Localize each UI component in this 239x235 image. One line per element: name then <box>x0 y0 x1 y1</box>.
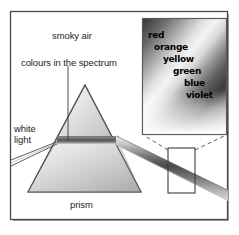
label-smoky-air: smoky air <box>52 30 92 41</box>
spectrum-label-yellow: yellow <box>163 54 194 64</box>
spectrum-label-orange: orange <box>154 42 188 52</box>
figure-canvas: smoky air colours in the spectrum white … <box>0 0 239 235</box>
spectrum-label-blue: blue <box>184 78 205 88</box>
prism-dispersion-illustration <box>0 0 239 235</box>
spectrum-label-violet: violet <box>186 90 213 100</box>
beam-inside-prism <box>57 137 119 145</box>
spectrum-label-green: green <box>173 66 201 76</box>
label-prism: prism <box>70 199 93 210</box>
spectrum-label-red: red <box>148 30 164 40</box>
label-white: white <box>14 123 36 134</box>
label-light: light <box>14 134 31 145</box>
label-colours-in-the-spectrum: colours in the spectrum <box>21 57 117 68</box>
